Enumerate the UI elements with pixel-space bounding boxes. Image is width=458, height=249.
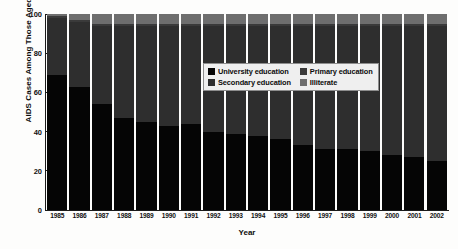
x-axis-tick-label: 2001 xyxy=(403,212,425,219)
legend-label: Secondary education xyxy=(218,78,291,87)
bar-segment xyxy=(114,26,134,118)
bar-segment xyxy=(92,14,112,24)
bar-segment xyxy=(181,14,201,24)
bar-segment xyxy=(203,14,223,24)
y-axis-tick-label: 0 xyxy=(38,206,46,215)
bar-segment xyxy=(114,14,134,24)
bar-segment xyxy=(69,22,89,87)
bar-1992[interactable] xyxy=(203,14,223,210)
bar-segment xyxy=(427,161,447,210)
legend-label: Illiterate xyxy=(310,78,337,87)
x-axis-tick-label: 1992 xyxy=(202,212,224,219)
bar-segment xyxy=(181,26,201,124)
bar-segment xyxy=(270,14,290,24)
bar-group xyxy=(46,14,448,210)
x-axis-tick-label: 1998 xyxy=(336,212,358,219)
bar-segment xyxy=(360,14,380,24)
bar-segment xyxy=(248,136,268,210)
bar-segment xyxy=(427,26,447,161)
bar-segment xyxy=(226,14,246,24)
x-axis-tick-label: 2000 xyxy=(381,212,403,219)
bar-segment xyxy=(404,157,424,210)
x-axis-tick-label: 1996 xyxy=(292,212,314,219)
legend-label: Primary education xyxy=(310,67,373,76)
bar-segment xyxy=(293,14,313,24)
bar-segment xyxy=(337,14,357,24)
bar-1986[interactable] xyxy=(69,14,89,210)
bar-segment xyxy=(404,14,424,24)
y-axis-tick-label: 100 xyxy=(29,10,46,19)
x-axis-tick-label: 1989 xyxy=(135,212,157,219)
bar-segment xyxy=(69,87,89,210)
legend-item[interactable]: Illiterate xyxy=(300,78,373,87)
bar-1988[interactable] xyxy=(114,14,134,210)
legend-item[interactable]: Primary education xyxy=(300,67,373,76)
bar-segment xyxy=(136,122,156,210)
bar-segment xyxy=(92,26,112,104)
y-axis-tick-label: 80 xyxy=(34,49,46,58)
bar-1998[interactable] xyxy=(337,14,357,210)
bar-segment xyxy=(136,14,156,24)
bar-segment xyxy=(47,75,67,210)
bar-segment xyxy=(315,14,335,24)
x-axis-line xyxy=(45,210,449,211)
bar-1989[interactable] xyxy=(136,14,156,210)
bar-segment xyxy=(92,104,112,210)
legend-label: University education xyxy=(218,67,289,76)
x-axis-tick-label: 1985 xyxy=(46,212,68,219)
plot-area: 020406080100 xyxy=(46,14,448,210)
bar-segment xyxy=(382,155,402,210)
bar-1993[interactable] xyxy=(226,14,246,210)
bar-segment xyxy=(337,149,357,210)
bar-1987[interactable] xyxy=(92,14,112,210)
legend-swatch-icon xyxy=(208,79,215,86)
bar-segment xyxy=(159,26,179,126)
y-axis-tick-label: 40 xyxy=(34,127,46,136)
bar-2000[interactable] xyxy=(382,14,402,210)
bar-segment xyxy=(270,139,290,210)
bar-2002[interactable] xyxy=(427,14,447,210)
bar-segment xyxy=(404,26,424,157)
legend-swatch-icon xyxy=(300,79,307,86)
y-axis-tick-label: 20 xyxy=(34,166,46,175)
x-axis-tick-label: 1993 xyxy=(225,212,247,219)
bar-segment xyxy=(360,151,380,210)
bar-segment xyxy=(159,126,179,210)
bar-1995[interactable] xyxy=(270,14,290,210)
bar-segment xyxy=(248,14,268,24)
bar-segment xyxy=(181,124,201,210)
x-axis-title: Year xyxy=(46,228,448,237)
bar-1997[interactable] xyxy=(315,14,335,210)
bar-segment xyxy=(382,14,402,24)
bar-1999[interactable] xyxy=(360,14,380,210)
legend-item[interactable]: Secondary education xyxy=(208,78,291,87)
bar-segment xyxy=(226,134,246,210)
bar-segment xyxy=(427,14,447,24)
bar-2001[interactable] xyxy=(404,14,424,210)
legend-item[interactable]: University education xyxy=(208,67,291,76)
bar-segment xyxy=(47,18,67,75)
chart-legend: University educationPrimary educationSec… xyxy=(203,63,379,91)
x-axis-tick-label: 1987 xyxy=(91,212,113,219)
x-axis-tick-label: 1999 xyxy=(359,212,381,219)
bar-segment xyxy=(136,26,156,122)
bar-1985[interactable] xyxy=(47,14,67,210)
bar-1990[interactable] xyxy=(159,14,179,210)
x-axis-tick-label: 1997 xyxy=(314,212,336,219)
bar-segment xyxy=(293,145,313,210)
y-axis-tick-label: 60 xyxy=(34,88,46,97)
bar-segment xyxy=(114,118,134,210)
x-axis-tick-label: 2002 xyxy=(426,212,448,219)
bar-1991[interactable] xyxy=(181,14,201,210)
x-axis-tick-label: 1991 xyxy=(180,212,202,219)
x-axis-tick-label: 1994 xyxy=(247,212,269,219)
x-axis-tick-label: 1988 xyxy=(113,212,135,219)
bar-segment xyxy=(315,149,335,210)
bar-1996[interactable] xyxy=(293,14,313,210)
bar-1994[interactable] xyxy=(248,14,268,210)
legend-swatch-icon xyxy=(300,68,307,75)
bar-segment xyxy=(159,14,179,24)
x-axis-tick-label: 1986 xyxy=(68,212,90,219)
x-axis-tick-label: 1990 xyxy=(158,212,180,219)
legend-swatch-icon xyxy=(208,68,215,75)
